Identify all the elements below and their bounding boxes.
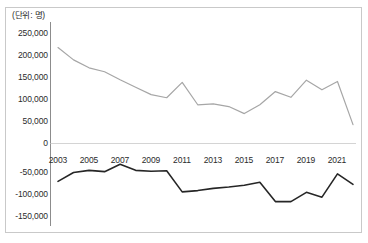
x-tick-2019: 2019 (291, 155, 321, 165)
y-tick-250000: 250,000 (4, 28, 48, 38)
y-tick-100000: 100,000 (4, 94, 48, 104)
y-tick-200000: 200,000 (4, 50, 48, 60)
x-tick-2011: 2011 (167, 155, 197, 165)
line-series-lower (58, 164, 353, 201)
y-tick-neg150000: -150,000 (4, 211, 48, 221)
y-tick-150000: 150,000 (4, 72, 48, 82)
line-series-upper (58, 48, 353, 125)
x-tick-2015: 2015 (229, 155, 259, 165)
plot-area (0, 0, 368, 243)
x-tick-2003: 2003 (43, 155, 73, 165)
x-tick-2021: 2021 (322, 155, 352, 165)
chart-container: (단위: 명) 250,000 200,000 150,000 100,000 … (0, 0, 368, 243)
x-tick-2009: 2009 (136, 155, 166, 165)
x-tick-2017: 2017 (260, 155, 290, 165)
y-tick-0: 0 (4, 138, 48, 148)
y-tick-neg50000: -50,000 (4, 167, 48, 177)
x-tick-2013: 2013 (198, 155, 228, 165)
x-tick-2005: 2005 (74, 155, 104, 165)
x-tick-2007: 2007 (105, 155, 135, 165)
y-tick-neg100000: -100,000 (4, 189, 48, 199)
y-tick-50000: 50,000 (4, 116, 48, 126)
